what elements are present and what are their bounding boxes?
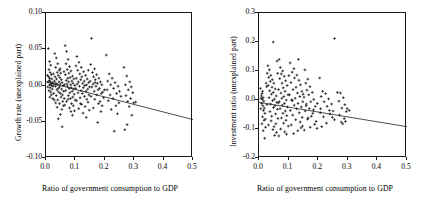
x-axis-label-left: Ratio of government consumption to GDP — [10, 184, 210, 193]
y-tick-mark — [42, 85, 45, 86]
y-tick-label: 0.10 — [14, 7, 42, 16]
x-tick-label: 0.2 — [305, 162, 329, 171]
x-tick-label: 0.1 — [276, 162, 300, 171]
y-tick-mark — [255, 12, 258, 13]
x-tick-mark — [163, 157, 164, 160]
x-tick-mark — [104, 157, 105, 160]
y-tick-mark — [42, 121, 45, 122]
x-tick-mark — [133, 157, 134, 160]
x-tick-mark — [376, 157, 377, 160]
y-axis-label-left: Growth rate (unexplained part) — [14, 44, 23, 141]
regression-line-left — [46, 13, 193, 158]
y-tick-label: -0.10 — [14, 152, 42, 161]
y-tick-label: 0.3 — [227, 7, 255, 16]
x-tick-label: 0.5 — [394, 162, 418, 171]
y-tick-mark — [255, 128, 258, 129]
x-tick-label: 0.3 — [121, 162, 145, 171]
x-tick-mark — [192, 157, 193, 160]
figure-two-scatter-panels: 0.100.050.00-0.05-0.10 0.00.10.20.30.40.… — [0, 0, 426, 211]
x-tick-label: 0.0 — [33, 162, 57, 171]
y-tick-mark — [42, 12, 45, 13]
plot-frame-right — [258, 12, 406, 157]
y-tick-label: -0.2 — [227, 152, 255, 161]
y-tick-mark — [42, 48, 45, 49]
x-tick-label: 0.3 — [335, 162, 359, 171]
x-tick-label: 0.1 — [62, 162, 86, 171]
x-tick-label: 0.4 — [151, 162, 175, 171]
y-tick-mark — [255, 41, 258, 42]
y-tick-mark — [255, 99, 258, 100]
x-axis-label-right: Ratio of government consumption to GDP — [225, 184, 425, 193]
panel-investment-ratio: 0.30.20.10.0-0.1-0.2 0.00.10.20.30.40.5 … — [213, 0, 426, 211]
x-tick-mark — [347, 157, 348, 160]
x-tick-mark — [74, 157, 75, 160]
y-axis-label-right: Investment ratio (unexplained part) — [229, 36, 238, 147]
x-tick-label: 0.0 — [246, 162, 270, 171]
regression-line-right — [259, 13, 407, 158]
y-tick-mark — [255, 70, 258, 71]
x-tick-mark — [317, 157, 318, 160]
plot-frame-left — [45, 12, 192, 157]
x-tick-label: 0.5 — [180, 162, 204, 171]
x-tick-mark — [288, 157, 289, 160]
x-tick-label: 0.4 — [364, 162, 388, 171]
panel-growth-rate: 0.100.050.00-0.05-0.10 0.00.10.20.30.40.… — [0, 0, 213, 211]
x-tick-mark — [258, 157, 259, 160]
x-tick-label: 0.2 — [92, 162, 116, 171]
x-tick-mark — [45, 157, 46, 160]
x-tick-mark — [406, 157, 407, 160]
